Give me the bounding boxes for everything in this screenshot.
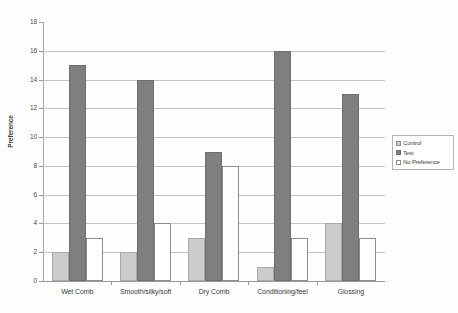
y-axis-title: Preference — [7, 115, 14, 148]
chart-figure: Preference 024681012141618 Wet CombSmoot… — [0, 0, 458, 313]
x-category-label: Wet Comb — [43, 288, 111, 296]
bar — [205, 152, 222, 282]
legend-item-control: Control — [396, 139, 451, 147]
legend-swatch-control-icon — [396, 141, 401, 146]
bar-group — [180, 22, 248, 281]
legend-item-no-preference: No Preference — [396, 158, 451, 166]
legend-label-test: Test — [403, 150, 413, 156]
bar — [69, 65, 86, 281]
bar — [52, 252, 69, 281]
bar-group — [43, 22, 111, 281]
x-axis-line — [43, 281, 385, 282]
legend-label-control: Control — [403, 140, 421, 146]
y-tick-label-14: 14 — [11, 77, 37, 84]
y-tick-label-2: 2 — [11, 249, 37, 256]
bar — [222, 166, 239, 281]
bar — [257, 267, 274, 281]
y-tick-label-16: 16 — [11, 48, 37, 55]
y-tick-label-18: 18 — [11, 19, 37, 26]
bar — [342, 94, 359, 281]
x-tick-separator — [317, 281, 318, 285]
x-category-label: Glossing — [317, 288, 385, 296]
x-category-label: Dry Comb — [180, 288, 248, 296]
bar — [325, 223, 342, 281]
x-tick-separator — [248, 281, 249, 285]
y-tick-label-8: 8 — [11, 163, 37, 170]
y-tick-label-12: 12 — [11, 105, 37, 112]
legend-swatch-no-preference-icon — [396, 160, 401, 165]
bar-group — [317, 22, 385, 281]
bar — [154, 223, 171, 281]
bar — [359, 238, 376, 281]
legend-label-no-preference: No Preference — [403, 159, 440, 165]
chart-legend: Control Test No Preference — [392, 135, 454, 170]
bar-group — [248, 22, 316, 281]
bar — [137, 80, 154, 281]
y-tick-label-0: 0 — [11, 278, 37, 285]
legend-swatch-test-icon — [396, 150, 401, 155]
y-tick-label-6: 6 — [11, 192, 37, 199]
x-tick-separator — [111, 281, 112, 285]
y-tick-label-10: 10 — [11, 134, 37, 141]
bar — [188, 238, 205, 281]
bar — [274, 51, 291, 281]
x-category-label: Smooth/silky/soft — [111, 288, 179, 296]
bar — [291, 238, 308, 281]
bar-group — [111, 22, 179, 281]
x-category-label: Conditioning/feel — [248, 288, 316, 296]
y-tick-mark-0 — [39, 281, 43, 282]
x-tick-separator — [180, 281, 181, 285]
bar — [120, 252, 137, 281]
bar — [86, 238, 103, 281]
y-tick-label-4: 4 — [11, 220, 37, 227]
plot-area — [43, 22, 385, 281]
legend-item-test: Test — [396, 149, 451, 157]
